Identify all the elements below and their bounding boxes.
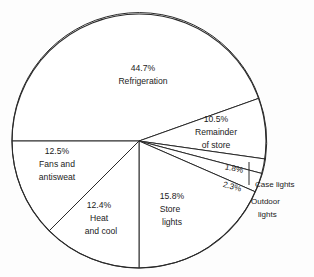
refrigeration-name: Refrigeration [118, 76, 167, 86]
fans-and-antisweat-name-line2: antisweat [39, 172, 76, 182]
pie-chart: 44.7% Refrigeration 10.5% Remainder of s… [0, 0, 314, 277]
remainder-of-store-percent: 10.5% [204, 114, 229, 124]
refrigeration-percent: 44.7% [131, 63, 156, 73]
outdoor-lights-name-line1: Outdoor [251, 197, 280, 206]
case-lights-name: Case lights [255, 180, 295, 189]
fans-and-antisweat-percent: 12.5% [45, 146, 70, 156]
pie-chart-page: 44.7% Refrigeration 10.5% Remainder of s… [0, 0, 314, 277]
remainder-of-store-name-line1: Remainder [195, 127, 237, 137]
store-lights-percent: 15.8% [160, 191, 185, 201]
remainder-of-store-name-line2: of store [202, 140, 231, 150]
outdoor-lights-name-line2: lights [258, 210, 277, 219]
heat-and-cool-percent: 12.4% [87, 200, 112, 210]
store-lights-name-line1: Store [160, 204, 181, 214]
heat-and-cool-name-line2: and cool [85, 226, 118, 236]
heat-and-cool-name-line1: Heat [90, 213, 109, 223]
store-lights-name-line2: lights [162, 217, 182, 227]
fans-and-antisweat-name-line1: Fans and [39, 159, 75, 169]
